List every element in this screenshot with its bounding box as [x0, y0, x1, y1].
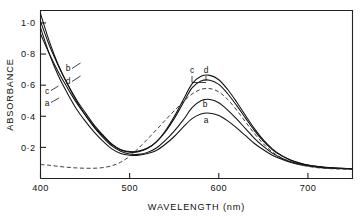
- spectral-curves: [41, 14, 353, 170]
- leader-left-2: [51, 86, 59, 91]
- curve-label-b-0: b: [66, 63, 71, 73]
- curve-label-d-1: d: [66, 76, 71, 86]
- x-tick-label-2: 600: [211, 183, 228, 193]
- curve-annotations: bdcacdba: [45, 63, 209, 125]
- curve-label-a-7: a: [204, 115, 209, 125]
- y-tick-label-3: 0·8: [21, 49, 35, 59]
- curve-c: [41, 34, 353, 169]
- axes: [41, 11, 353, 179]
- curve-label-c-4: c: [190, 65, 194, 75]
- leader-left-0: [72, 63, 81, 69]
- y-tick-label-4: 1·0: [21, 18, 35, 28]
- x-axis-title: WAVELENGTH (nm): [148, 202, 245, 212]
- x-tick-label-3: 700: [300, 183, 317, 193]
- x-tick-label-0: 400: [32, 183, 49, 193]
- curve-label-d-5: d: [204, 65, 209, 75]
- leader-left-3: [51, 98, 59, 103]
- chart-canvas: bdcacdba 0·20·40·60·81·0400500600700WAVE…: [0, 0, 364, 217]
- y-tick-label-0: 0·2: [21, 143, 35, 153]
- curve-d: [41, 21, 353, 168]
- absorbance-spectrum-figure: bdcacdba 0·20·40·60·81·0400500600700WAVE…: [0, 0, 364, 217]
- y-tick-label-1: 0·4: [21, 112, 35, 122]
- curve-label-c-2: c: [45, 86, 49, 96]
- curve-label-a-3: a: [45, 98, 50, 108]
- y-axis-title: ABSORBANCE: [5, 58, 15, 130]
- plot-frame: [41, 11, 353, 179]
- leader-left-1: [72, 76, 81, 82]
- curve-a: [41, 28, 353, 169]
- curve-reference: [41, 88, 353, 169]
- x-tick-label-1: 500: [121, 183, 138, 193]
- y-tick-label-2: 0·6: [21, 80, 35, 90]
- curve-label-b-6: b: [203, 99, 208, 109]
